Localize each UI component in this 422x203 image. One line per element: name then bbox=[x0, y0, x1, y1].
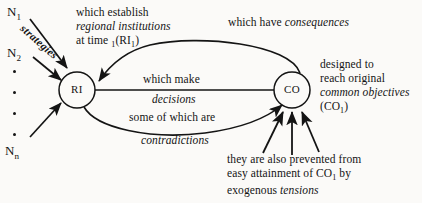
tension-arrow-left bbox=[263, 112, 283, 153]
objectives-line-4: (CO1) bbox=[320, 99, 410, 116]
objectives-annotation: designed to reach original common object… bbox=[320, 57, 410, 116]
tensions-annotation: they are also prevented from easy attain… bbox=[227, 152, 361, 197]
diagram-canvas: RI CO N1 N2 Nn strategies which establis… bbox=[0, 0, 422, 203]
decisions-line-4: contradictions bbox=[141, 133, 209, 147]
establish-annotation: which establish regional institutions at… bbox=[76, 5, 171, 50]
objectives-line-1: designed to bbox=[320, 57, 410, 71]
input-arrow-nn bbox=[30, 103, 61, 137]
decisions-line-1: which make bbox=[143, 72, 200, 86]
tension-arrow-right bbox=[302, 112, 319, 152]
input-label-n1: N1 bbox=[7, 4, 21, 22]
objectives-line-2: reach original bbox=[320, 71, 410, 85]
node-label-co: CO bbox=[276, 83, 308, 95]
decisions-line-3: some of which are bbox=[129, 110, 215, 124]
consequences-annotation: which have consequences bbox=[228, 15, 349, 29]
establish-line-3: at time 1(RI1) bbox=[76, 33, 171, 50]
exogenous-tension-arrows bbox=[263, 112, 319, 155]
decisions-line-2: decisions bbox=[152, 92, 196, 106]
tensions-line-1: they are also prevented from bbox=[227, 152, 361, 166]
input-label-nn: Nn bbox=[5, 143, 19, 161]
objectives-line-3: common objectives bbox=[320, 85, 410, 99]
tensions-line-2: easy attainment of CO1 by bbox=[227, 166, 361, 183]
establish-line-1: which establish bbox=[76, 5, 171, 19]
node-label-ri: RI bbox=[61, 83, 93, 95]
establish-line-2: regional institutions bbox=[76, 19, 171, 33]
input-label-n2: N2 bbox=[7, 45, 21, 63]
input-arrow-n2 bbox=[33, 57, 61, 80]
tensions-line-3: exogenous tensions bbox=[227, 183, 361, 197]
